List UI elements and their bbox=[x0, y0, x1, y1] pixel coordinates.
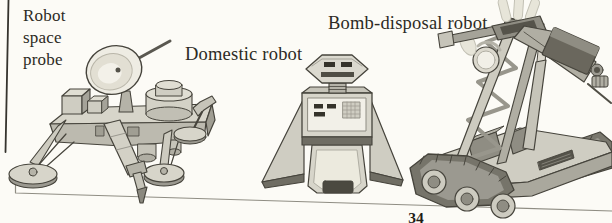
domestic-robot-illustration bbox=[262, 55, 403, 193]
bumper bbox=[323, 181, 353, 193]
mouth-slit bbox=[321, 72, 354, 77]
head bbox=[306, 55, 368, 83]
label-domestic-robot: Domestic robot bbox=[185, 44, 302, 65]
page-number: 34 bbox=[394, 209, 438, 223]
torso bbox=[302, 87, 372, 145]
floodlight bbox=[473, 42, 500, 73]
base-column bbox=[308, 145, 367, 193]
panel-button bbox=[314, 104, 323, 109]
neck bbox=[329, 83, 346, 93]
scanned-book-page: Robot space probe Domestic robot Bomb-di… bbox=[0, 0, 612, 223]
eye bbox=[324, 62, 335, 67]
label-line: space bbox=[23, 27, 66, 49]
waist-band bbox=[302, 137, 372, 145]
label-bomb-disposal-robot: Bomb-disposal robot bbox=[328, 13, 488, 34]
eye bbox=[341, 62, 352, 67]
leader-line-left bbox=[6, 0, 9, 152]
speaker-grille bbox=[343, 102, 360, 118]
drill-tip bbox=[137, 187, 147, 203]
label-line: probe bbox=[23, 49, 66, 71]
panel-button bbox=[327, 104, 336, 109]
robots-illustration bbox=[0, 0, 612, 223]
panel-button bbox=[314, 112, 325, 117]
label-line: Robot bbox=[23, 5, 66, 27]
label-robot-space-probe: Robot space probe bbox=[23, 5, 66, 71]
